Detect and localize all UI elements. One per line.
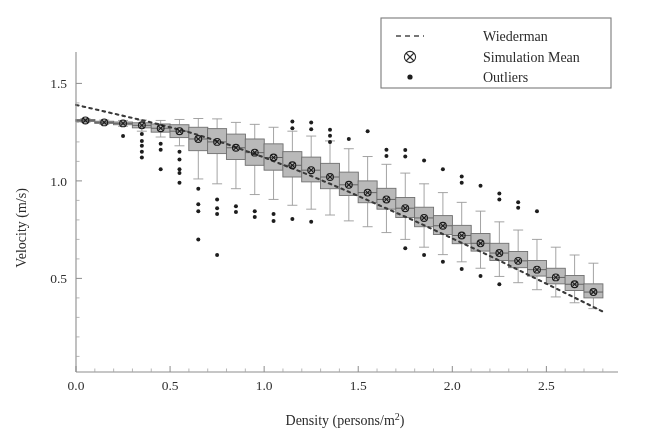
outlier-point (215, 212, 219, 216)
outlier-point (328, 140, 332, 144)
series-layer (76, 105, 603, 312)
x-tick-label: 1.0 (256, 378, 273, 393)
x-tick-label: 0.5 (162, 378, 179, 393)
box-group (170, 119, 189, 184)
outlier-point (196, 209, 200, 213)
box-group (471, 184, 490, 278)
figure-container: 0.00.51.01.52.02.50.51.01.5 Velocity (m/… (0, 0, 649, 437)
outlier-point (140, 139, 144, 143)
outlier-point (403, 246, 407, 250)
box-group (358, 129, 377, 227)
outlier-point (497, 192, 501, 196)
outlier-point (497, 197, 501, 201)
outlier-point (140, 144, 144, 148)
outlier-point (196, 237, 200, 241)
outlier-point (253, 215, 257, 219)
outlier-point (422, 253, 426, 257)
x-tick-label: 2.0 (444, 378, 461, 393)
outlier-point (535, 209, 539, 213)
outlier-point (215, 197, 219, 201)
outlier-point (177, 150, 181, 154)
box-iqr (283, 152, 302, 177)
box-iqr (527, 260, 546, 276)
y-tick-label: 1.0 (50, 174, 67, 189)
box-iqr (415, 207, 434, 227)
boxplot-chart: 0.00.51.01.52.02.50.51.01.5 Velocity (m/… (0, 0, 649, 437)
box-group (339, 137, 358, 221)
box-group (565, 255, 584, 303)
outlier-point (516, 206, 520, 210)
box-group (396, 148, 415, 250)
box-group (584, 263, 603, 308)
outlier-point (272, 219, 276, 223)
outlier-point (272, 212, 276, 216)
y-axis-title: Velocity (m/s) (14, 188, 30, 268)
outlier-point (177, 171, 181, 175)
legend-dot-icon (407, 74, 412, 79)
outlier-point (441, 167, 445, 171)
outlier-point (177, 167, 181, 171)
box-iqr (565, 275, 584, 290)
outlier-point (366, 129, 370, 133)
legend-label-outliers: Outliers (483, 70, 528, 85)
outlier-point (159, 142, 163, 146)
outlier-point (403, 155, 407, 159)
box-group (415, 158, 434, 257)
outlier-point (479, 274, 483, 278)
outlier-point (479, 184, 483, 188)
outlier-point (121, 134, 125, 138)
legend-label-simulation-mean: Simulation Mean (483, 50, 580, 65)
x-tick-label: 2.5 (538, 378, 555, 393)
outlier-point (159, 148, 163, 152)
outlier-point (140, 132, 144, 136)
x-tick-label: 1.5 (350, 378, 367, 393)
x-tick-label: 0.0 (68, 378, 85, 393)
box-group (321, 128, 340, 215)
legend-label-wiederman: Wiederman (483, 29, 548, 44)
outlier-point (328, 134, 332, 138)
box-group (490, 192, 509, 287)
outlier-point (460, 267, 464, 271)
outlier-point (290, 119, 294, 123)
outlier-point (403, 148, 407, 152)
box-group (546, 247, 565, 297)
outlier-point (253, 209, 257, 213)
outlier-point (196, 187, 200, 191)
box-group (377, 148, 396, 233)
outlier-point (234, 210, 238, 214)
outlier-point (215, 253, 219, 257)
outlier-point (460, 181, 464, 185)
box-group (509, 200, 528, 282)
outlier-point (290, 217, 294, 221)
outlier-point (177, 157, 181, 161)
outlier-point (347, 137, 351, 141)
outlier-point (290, 126, 294, 130)
box-iqr (546, 268, 565, 284)
outlier-point (384, 154, 388, 158)
box-group (264, 127, 283, 223)
outlier-point (441, 260, 445, 264)
outlier-point (140, 150, 144, 154)
outlier-point (497, 282, 501, 286)
box-group (452, 175, 471, 271)
box-group (226, 122, 245, 214)
box-group (245, 124, 264, 219)
box-iqr (452, 225, 471, 243)
y-tick-label: 1.5 (50, 76, 67, 91)
wiederman-line (76, 105, 603, 312)
outlier-point (234, 204, 238, 208)
box-group (189, 119, 208, 242)
outlier-point (309, 127, 313, 131)
outlier-point (384, 148, 388, 152)
outlier-point (516, 200, 520, 204)
outlier-point (159, 167, 163, 171)
axes-layer: 0.00.51.01.52.02.50.51.01.5 (50, 52, 618, 393)
box-iqr (509, 251, 528, 267)
outlier-point (140, 156, 144, 160)
outlier-point (215, 206, 219, 210)
outlier-point (460, 175, 464, 179)
box-group (433, 167, 452, 264)
outlier-point (177, 181, 181, 185)
outlier-point (309, 220, 313, 224)
x-axis-title: Density (persons/m2) (286, 411, 405, 430)
